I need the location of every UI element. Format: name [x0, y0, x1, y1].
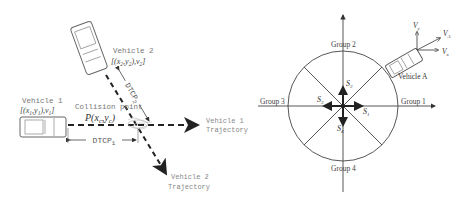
- group-1-label: Group 1: [401, 97, 426, 106]
- va-label: VA: [443, 29, 452, 39]
- vehicle-1-state: [(x1,y1),v1]: [20, 106, 54, 116]
- s2-label: S2: [346, 79, 353, 89]
- s3-label: S3: [317, 95, 324, 105]
- collision-point-label: Collision point: [75, 103, 143, 111]
- vx-label: Vx: [442, 47, 450, 57]
- vehicle-a-label: Vehicle A: [398, 72, 428, 81]
- vehicle-2-label: Vehicle 2: [113, 47, 154, 55]
- group-2-label: Group 2: [331, 40, 356, 49]
- vehicle-1-label: Vehicle 1: [22, 97, 63, 105]
- dtcp2-label: DTCP2: [121, 82, 140, 105]
- vehicle-2-trajectory-sublabel: Trajectory: [168, 183, 210, 191]
- vehicle-1-trajectory-sublabel: Trajectory: [206, 126, 248, 134]
- vehicle-2-icon: [70, 21, 108, 76]
- diagram-canvas: DTCP1 DTCP2 Vehicle 1 [(x1,y1),v1] Vehic…: [0, 0, 468, 203]
- s1-label: S1: [363, 107, 370, 117]
- collision-diagram: DTCP1 DTCP2 Vehicle 1 [(x1,y1),v1] Vehic…: [20, 21, 248, 191]
- vehicle-1-icon: [20, 117, 66, 137]
- velocity-vectors: [417, 32, 440, 50]
- group-classification-diagram: S1 S2 S3 S4 Group 1 Group 2 Group 3 Grou…: [258, 15, 452, 192]
- vy-label: Vy: [413, 21, 421, 31]
- vehicle-1-trajectory-label: Vehicle 1: [206, 117, 244, 125]
- vehicle-2-trajectory-label: Vehicle 2: [171, 173, 209, 181]
- collision-point-formula: P(xc,yc): [84, 112, 116, 124]
- group-4-label: Group 4: [331, 164, 356, 173]
- group-3-label: Group 3: [260, 97, 285, 106]
- vehicle-2-state: [(x2,y2),v2]: [111, 57, 145, 67]
